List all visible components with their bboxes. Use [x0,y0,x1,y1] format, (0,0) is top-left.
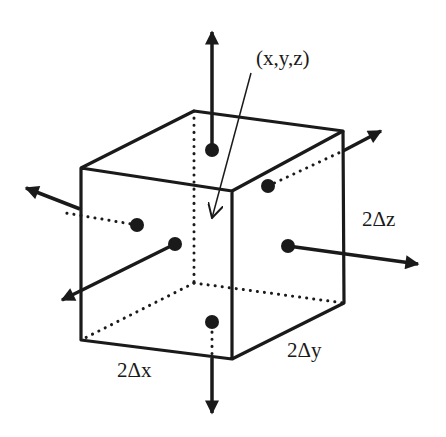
dy-label: 2Δy [287,338,322,363]
arrow-front [62,244,175,300]
normal-arrows [26,32,418,413]
dx-label: 2Δx [117,358,152,383]
point-label: (x,y,z) [256,46,309,71]
arrow-back-right [343,131,381,151]
arrow-right [288,246,418,264]
dot-back-right [261,179,275,193]
dot-back-left [130,218,144,232]
dot-front [168,237,182,251]
dot-right [281,239,295,253]
dot-top [205,143,219,157]
arrow-back-left [26,188,80,209]
dot-bottom [205,315,219,329]
dz-label: 2Δz [362,207,395,232]
